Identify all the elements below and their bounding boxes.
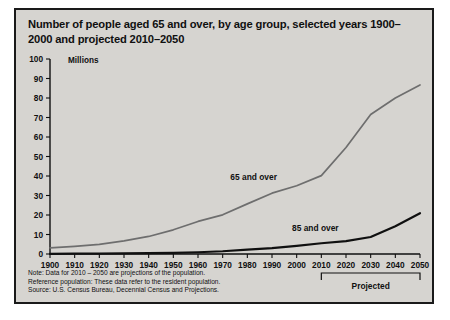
y-tick-label: 30: [34, 191, 44, 201]
x-axis-ticks: 1900191019201930194019501960197019801990…: [41, 254, 430, 270]
series-labels: 65 and over85 and over: [230, 172, 339, 233]
chart-plot: 0102030405060708090100 19001910192019301…: [16, 10, 436, 306]
y-tick-label: 60: [34, 132, 44, 142]
series-annotation: 85 and over: [292, 223, 339, 233]
data-series: [50, 85, 420, 254]
footnotes: Note: Data for 2010 – 2050 are projectio…: [28, 269, 418, 295]
y-tick-label: 80: [34, 93, 44, 103]
y-tick-label: 0: [38, 249, 43, 259]
y-tick-label: 50: [34, 152, 44, 162]
y-tick-label: 70: [34, 113, 44, 123]
series-line-65-and-over: [50, 85, 420, 248]
footnote-note: Note: Data for 2010 – 2050 are projectio…: [28, 269, 418, 278]
y-tick-label: 90: [34, 74, 44, 84]
y-axis-ticks: 0102030405060708090100: [29, 54, 50, 259]
chart-figure: Number of people aged 65 and over, by ag…: [14, 8, 434, 304]
axis-lines: [50, 59, 420, 254]
y-tick-label: 100: [29, 54, 43, 64]
footnote-reference: Reference population: These data refer t…: [28, 278, 418, 287]
series-annotation: 65 and over: [230, 172, 277, 182]
footnote-source: Source: U.S. Census Bureau, Decennial Ce…: [28, 286, 418, 295]
y-tick-label: 10: [34, 230, 44, 240]
y-tick-label: 40: [34, 171, 44, 181]
y-tick-label: 20: [34, 210, 44, 220]
series-line-85-and-over: [50, 213, 420, 254]
